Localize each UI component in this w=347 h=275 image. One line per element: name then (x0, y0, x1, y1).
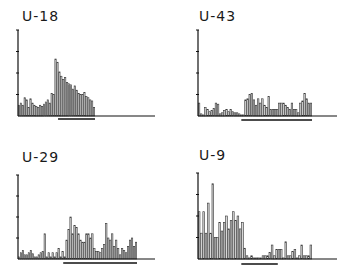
histogram-bar (221, 231, 223, 259)
histogram-bar (285, 242, 287, 259)
histogram-bar (292, 251, 294, 259)
histogram-bar (295, 110, 297, 116)
histogram-bar (233, 212, 235, 259)
histogram-bar (304, 93, 306, 116)
histogram-bar (253, 100, 255, 116)
histogram-bar (293, 110, 295, 116)
histogram-bar (26, 255, 27, 259)
histogram-bar (112, 234, 113, 259)
histogram-bar (68, 230, 69, 259)
histogram-bar (205, 107, 207, 116)
histogram-bar (117, 249, 118, 260)
histogram-bar (201, 233, 203, 259)
histogram-bar (20, 103, 21, 116)
histogram-bar (264, 105, 266, 116)
histogram-bar (300, 103, 302, 116)
histogram-bar (125, 253, 126, 259)
histogram-bar (223, 222, 225, 259)
histogram-u9 (173, 137, 347, 275)
histogram-bar (53, 95, 54, 117)
histogram-bar (74, 225, 75, 259)
histogram-bar (294, 249, 296, 259)
histogram-bar (245, 100, 247, 116)
histogram-bar (133, 246, 134, 259)
histogram-bar (22, 251, 23, 259)
histogram-bar (78, 234, 79, 259)
histogram-bar (84, 242, 85, 259)
histogram-bar (106, 223, 107, 259)
histogram-bar (59, 72, 60, 116)
histogram-bar (66, 240, 67, 259)
histogram-bar (44, 234, 45, 259)
histogram-bar (88, 98, 89, 116)
histogram-bar (108, 238, 109, 259)
histogram-bar (235, 220, 237, 259)
histogram-bar (92, 234, 93, 259)
histogram-bar (228, 112, 230, 116)
histogram-bar (52, 253, 53, 259)
histogram-bar (215, 103, 217, 116)
histogram-bar (226, 216, 228, 259)
histogram-bar (42, 252, 43, 259)
histogram-bar (207, 110, 209, 116)
histogram-bar (230, 110, 232, 116)
histogram-bar (76, 90, 77, 116)
histogram-bar (22, 105, 23, 116)
histogram-bar (38, 107, 39, 116)
histogram-bar (301, 245, 303, 259)
histogram-bar (100, 253, 101, 259)
histogram-bar (276, 110, 278, 116)
histogram-bar (308, 103, 310, 116)
histogram-bar (70, 85, 71, 116)
histogram-bar (38, 255, 39, 259)
histogram-bar (110, 240, 111, 259)
histogram-bar (207, 203, 209, 259)
histogram-bar (210, 233, 212, 259)
histogram-bar (270, 110, 272, 116)
histogram-bar (219, 222, 221, 259)
histogram-bar (94, 249, 95, 260)
histogram-bar (61, 76, 62, 116)
histogram-bar (36, 106, 37, 116)
histogram-bar (82, 242, 83, 259)
histogram-bar (123, 251, 124, 259)
histogram-bar (217, 238, 219, 260)
panel-u29: U-29 (0, 137, 173, 275)
histogram-bar (93, 107, 94, 116)
histogram-bar (70, 217, 71, 259)
histogram-bar (279, 103, 281, 116)
histogram-bar (90, 100, 91, 116)
histogram-bar (269, 253, 271, 259)
panel-u18: U-18 (0, 0, 173, 135)
histogram-bar (255, 105, 257, 116)
histogram-bar (96, 252, 97, 259)
histogram-bar (55, 59, 56, 116)
histogram-bar (211, 111, 213, 116)
histogram-bar (86, 234, 87, 259)
histogram-bar (58, 249, 59, 260)
histogram-bar (121, 249, 122, 260)
histogram-bar (20, 253, 21, 259)
histogram-bar (24, 98, 25, 116)
histogram-bar (32, 103, 33, 116)
histogram-bar (47, 100, 48, 116)
histogram-bar (119, 255, 120, 259)
histogram-bar (48, 253, 49, 259)
histogram-bar (276, 249, 278, 259)
histogram-bar (34, 105, 35, 116)
panel-u43: U-43 (173, 0, 347, 135)
histogram-bar (45, 102, 46, 116)
histogram-bar (51, 93, 52, 116)
histogram-bar (80, 240, 81, 259)
histogram-bar (82, 95, 83, 117)
histogram-bar (310, 245, 312, 259)
histogram-bar (72, 234, 73, 259)
histogram-bar (306, 99, 308, 116)
histogram-bar (80, 95, 81, 117)
histogram-bar (205, 233, 207, 259)
histogram-bar (135, 242, 136, 259)
histogram-bar (272, 110, 274, 116)
histogram-bar (32, 254, 33, 259)
histogram-bar (278, 249, 280, 259)
histogram-bar (43, 104, 44, 116)
